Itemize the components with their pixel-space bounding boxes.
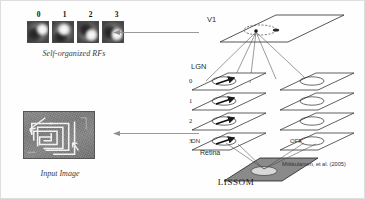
off-channel-label: OFF	[290, 138, 302, 144]
rf-index-1: 1	[53, 10, 76, 19]
maze-overlay-icon	[24, 112, 94, 158]
self-organized-rf-strip	[27, 21, 124, 43]
lissom-title: LISSOM	[197, 177, 275, 187]
rf-caption: Self-organized RFs	[19, 49, 129, 58]
rf-index-0: 0	[27, 10, 50, 19]
input-image-caption: Input Image	[15, 169, 105, 178]
rf-index-2: 2	[79, 10, 102, 19]
lgn-layer-index-0: 0	[189, 77, 192, 84]
v1-plane	[220, 15, 344, 42]
rf-index-labels: 0 1 2 3	[27, 10, 128, 19]
lgn-layer-index-1: 1	[189, 97, 192, 104]
lissom-architecture-figure: 0 1 2 3 Self-organized RFs	[0, 0, 365, 199]
retina-label: Retina	[200, 149, 220, 156]
lgn-layer-index-2: 2	[189, 117, 192, 124]
rf-patch-0	[27, 21, 49, 43]
v1-label: V1	[207, 15, 216, 24]
citation-label: Miikkulainen, et al. (2005)	[282, 161, 346, 167]
rf-patch-2	[77, 21, 99, 43]
on-channel-label: ON	[191, 138, 200, 144]
lissom-stack-diagram	[184, 3, 364, 199]
lgn-label: LGN	[191, 62, 206, 71]
rf-patch-1	[52, 21, 74, 43]
rf-index-3: 3	[105, 10, 128, 19]
input-image-thumbnail	[23, 111, 95, 159]
